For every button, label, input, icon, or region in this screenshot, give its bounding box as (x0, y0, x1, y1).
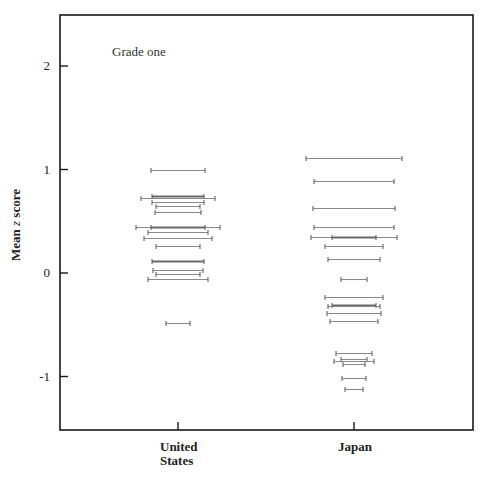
y-axis-label: Mean z score (8, 189, 23, 261)
y-tick-label: 0 (44, 265, 51, 280)
category-label-united-states: UnitedStates (160, 439, 198, 468)
series-united-states (136, 168, 220, 326)
y-tick-label: 1 (44, 162, 51, 177)
y-axis-ticks: 210-1 (39, 58, 68, 384)
y-axis-label-suffix: score (8, 189, 23, 221)
x-axis-ticks (178, 422, 354, 430)
series-japan (306, 156, 402, 392)
chart: 210-1 Grade one Mean z score UnitedState… (0, 0, 483, 478)
category-label-line: States (160, 453, 193, 468)
y-tick-label: -1 (39, 369, 50, 384)
y-tick-label: 2 (44, 58, 51, 73)
category-label-line: United (160, 439, 198, 454)
annotation-grade-one: Grade one (112, 44, 166, 59)
plot-frame (60, 15, 473, 430)
y-axis-label-prefix: Mean (8, 226, 23, 261)
category-label-japan: Japan (338, 439, 373, 454)
interval-markers (136, 156, 402, 392)
